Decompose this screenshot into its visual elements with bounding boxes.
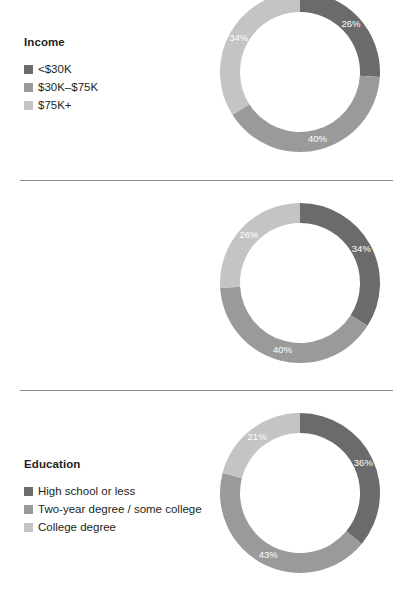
legend-list-income: <$30K $30K–$75K $75K+ xyxy=(24,62,98,113)
donut-slice xyxy=(220,203,300,288)
donut-chart-political: 36%43%21% xyxy=(210,403,390,583)
donut-slice xyxy=(223,413,300,478)
donut-slice-label: 21% xyxy=(248,431,268,442)
legend-item: $75K+ xyxy=(24,98,98,113)
donut-slice xyxy=(220,287,367,363)
section-divider xyxy=(20,390,393,391)
donut-slice xyxy=(220,0,300,115)
section-divider xyxy=(20,180,393,181)
legend-title-income: Income xyxy=(24,36,98,48)
donut-svg-education: 34%40%26% xyxy=(210,193,390,373)
legend-income: Income <$30K $30K–$75K $75K+ xyxy=(24,36,98,116)
legend-item: <$30K xyxy=(24,62,98,77)
legend-item-label: <$30K xyxy=(38,62,72,77)
legend-swatch-icon xyxy=(24,101,33,110)
donut-chart-education: 34%40%26% xyxy=(210,193,390,373)
donut-slice-label: 36% xyxy=(354,457,374,468)
donut-slice-label: 40% xyxy=(308,133,328,144)
legend-swatch-icon xyxy=(24,83,33,92)
donut-slice-label: 26% xyxy=(342,18,362,29)
donut-slice-label: 34% xyxy=(352,243,372,254)
legend-item-label: $30K–$75K xyxy=(38,80,98,95)
donut-slice xyxy=(300,413,380,544)
legend-swatch-icon xyxy=(24,65,33,74)
donut-svg-political: 36%43%21% xyxy=(210,403,390,583)
donut-slice-label: 43% xyxy=(259,549,279,560)
survey-demographics-figure: Income <$30K $30K–$75K $75K+ 26%40%34% xyxy=(0,0,408,596)
donut-slice xyxy=(300,0,380,77)
donut-svg-income: 26%40%34% xyxy=(210,0,390,162)
donut-chart-income: 26%40%34% xyxy=(210,0,390,162)
donut-slice-label: 26% xyxy=(239,229,259,240)
donut-slice xyxy=(300,203,380,326)
donut-slice-label: 34% xyxy=(229,32,249,43)
legend-item: $30K–$75K xyxy=(24,80,98,95)
legend-item-label: $75K+ xyxy=(38,98,72,113)
donut-slice-label: 40% xyxy=(273,344,293,355)
donut-slice xyxy=(220,473,362,573)
donut-slice xyxy=(232,76,379,152)
